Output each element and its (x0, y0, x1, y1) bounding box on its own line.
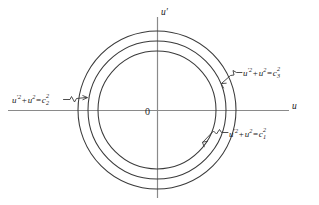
eq-c2-content: u′2+u2=c22 (12, 95, 46, 105)
level-curves-figure: u′ u 0 u′2+u2=c22 u′2+u2=c23 u′2+u2=c21 (0, 0, 319, 205)
equation-label-c2: u′2+u2=c22 (12, 93, 46, 105)
leader-c1 (202, 130, 228, 147)
eq-c3-content: u′2+u2=c23 (243, 68, 277, 78)
eq-c1-content: u′2+u2=c21 (229, 129, 263, 139)
origin-label: 0 (145, 106, 150, 117)
equation-label-c3: u′2+u2=c23 (243, 66, 277, 78)
equation-label-c1: u′2+u2=c21 (229, 127, 263, 139)
horizontal-axis-label: u (292, 101, 297, 111)
vertical-axis-label: u′ (161, 7, 168, 17)
leader-c2 (64, 96, 88, 102)
